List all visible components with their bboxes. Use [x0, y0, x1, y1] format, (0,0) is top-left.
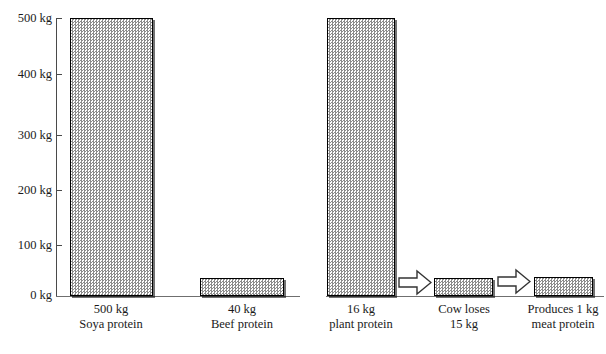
- y-axis-line: [56, 18, 57, 297]
- bar-beef-protein: [200, 278, 284, 296]
- y-axis-tick-200: [56, 190, 62, 191]
- bar-soya-protein: [70, 18, 153, 296]
- bar-plant-protein: [327, 18, 395, 296]
- y-axis-label-0: 0 kg: [0, 289, 52, 302]
- left-panel-baseline: [56, 296, 300, 297]
- right-panel-baseline: [326, 296, 604, 297]
- label-cow-loses-value: Cow loses: [438, 302, 490, 316]
- y-axis-tick-100: [56, 245, 62, 246]
- y-axis-tick-400: [56, 74, 62, 75]
- bar-meat-protein: [534, 277, 593, 296]
- label-meat-protein-value: Produces 1 kg: [528, 302, 599, 316]
- label-beef-protein-value: 40 kg: [228, 302, 256, 316]
- arrow-right-icon-1: [398, 269, 432, 296]
- label-soya-protein: 500 kg Soya protein: [61, 302, 161, 332]
- arrow-right-icon-2: [497, 268, 531, 295]
- label-plant-protein: 16 kg plant protein: [311, 302, 411, 332]
- label-cow-loses-name: 15 kg: [414, 317, 514, 332]
- label-cow-loses: Cow loses 15 kg: [414, 302, 514, 332]
- label-soya-protein-name: Soya protein: [61, 317, 161, 332]
- label-meat-protein: Produces 1 kg meat protein: [513, 302, 606, 332]
- bar-cow-loses: [434, 278, 493, 296]
- y-axis-label-200: 200 kg: [0, 184, 52, 197]
- y-axis-tick-500: [56, 18, 62, 19]
- label-plant-protein-name: plant protein: [311, 317, 411, 332]
- y-axis-tick-300: [56, 135, 62, 136]
- y-axis-label-100: 100 kg: [0, 239, 52, 252]
- y-axis-label-300: 300 kg: [0, 129, 52, 142]
- bar-chart-figure: 500 kg 400 kg 300 kg 200 kg 100 kg 0 kg …: [0, 0, 606, 354]
- label-soya-protein-value: 500 kg: [94, 302, 128, 316]
- label-plant-protein-value: 16 kg: [347, 302, 375, 316]
- y-axis-label-500: 500 kg: [0, 12, 52, 25]
- label-meat-protein-name: meat protein: [513, 317, 606, 332]
- label-beef-protein-name: Beef protein: [192, 317, 292, 332]
- label-beef-protein: 40 kg Beef protein: [192, 302, 292, 332]
- y-axis-label-400: 400 kg: [0, 68, 52, 81]
- clipped-title-fragment: [78, 0, 338, 4]
